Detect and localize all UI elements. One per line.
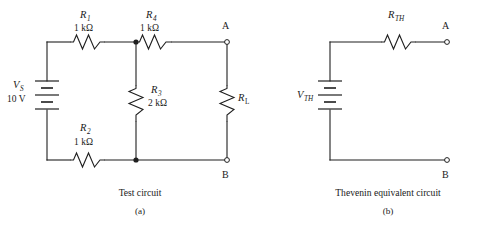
terminal-a-node-panel-a: [225, 40, 230, 45]
label-r4-value: 1 kΩ: [140, 23, 159, 33]
caption-panel-a: Test circuit: [119, 187, 162, 198]
label-r2-subscript: 2: [87, 128, 91, 136]
terminal-label-a-panel-b: A: [442, 20, 450, 31]
junction-dot-bottom: [133, 157, 138, 162]
label-r1-subscript: 1: [87, 15, 91, 23]
panel-a-test-circuit: R 1 1 kΩ R 4 1 kΩ V S 10 V R 3 2 kΩ R L …: [7, 9, 249, 216]
label-vs-subscript: S: [20, 85, 24, 93]
resistor-rl: [220, 85, 234, 122]
resistor-r3: [129, 85, 143, 122]
terminal-a-node-panel-b: [445, 40, 450, 45]
label-r3-symbol: R: [150, 84, 158, 95]
terminal-label-b-panel-b: B: [442, 169, 449, 180]
panel-letter-a: (a): [135, 206, 145, 216]
label-r2-value: 1 kΩ: [74, 137, 93, 147]
label-r3-value: 2 kΩ: [148, 98, 167, 108]
battery-vth: [318, 81, 342, 109]
circuit-figure: R 1 1 kΩ R 4 1 kΩ V S 10 V R 3 2 kΩ R L …: [0, 0, 479, 225]
label-rth-subscript: TH: [395, 15, 405, 23]
terminal-b-node-panel-b: [445, 158, 450, 163]
panel-b-thevenin-circuit: R TH V TH A B Thevenin equivalent circui…: [297, 9, 450, 216]
battery-vs: [35, 81, 59, 109]
label-r3-subscript: 3: [157, 90, 162, 98]
label-r1-symbol: R: [79, 9, 87, 20]
label-r1-value: 1 kΩ: [74, 23, 93, 33]
junction-dot-top: [133, 39, 138, 44]
resistor-rth: [381, 35, 416, 49]
label-rl-symbol: R: [237, 92, 245, 103]
resistor-r1: [70, 35, 105, 49]
panel-letter-b: (b): [383, 206, 394, 216]
label-r4-subscript: 4: [153, 15, 157, 23]
terminal-label-a-panel-a: A: [222, 20, 230, 31]
caption-panel-b: Thevenin equivalent circuit: [335, 187, 441, 198]
label-rth-symbol: R: [387, 9, 395, 20]
circuit-diagram-canvas: R 1 1 kΩ R 4 1 kΩ V S 10 V R 3 2 kΩ R L …: [0, 0, 479, 225]
label-r4-symbol: R: [145, 9, 153, 20]
label-r2-symbol: R: [79, 122, 87, 133]
resistor-r4: [136, 35, 172, 49]
terminal-label-b-panel-a: B: [222, 169, 229, 180]
label-rl-subscript: L: [245, 98, 249, 106]
resistor-r2: [70, 153, 105, 167]
label-vth-subscript: TH: [304, 95, 314, 103]
label-vs-value: 10 V: [7, 94, 26, 104]
terminal-b-node-panel-a: [225, 158, 230, 163]
